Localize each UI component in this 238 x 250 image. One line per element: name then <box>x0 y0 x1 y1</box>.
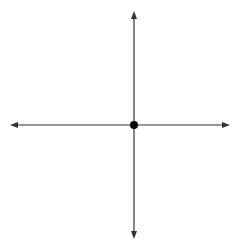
arrow-left-icon <box>10 122 18 128</box>
coordinate-plane <box>0 0 238 250</box>
point-c-dot <box>130 121 138 129</box>
arrow-right-icon <box>222 122 230 128</box>
arrow-down-icon <box>131 231 137 239</box>
x-axis <box>10 122 230 128</box>
arrow-up-icon <box>131 11 137 19</box>
